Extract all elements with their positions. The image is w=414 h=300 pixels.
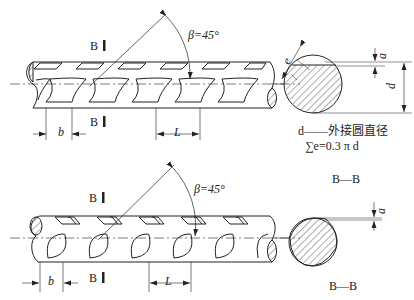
section-title-bottom: B—B [329, 280, 357, 292]
dim-b-top: b [58, 126, 64, 138]
section-mark-bottom-2 [102, 272, 105, 283]
section-label-top-1: B [90, 40, 98, 52]
note-diameter: d——外接圆直径 [298, 125, 388, 137]
section-mark-top-2 [103, 116, 106, 127]
dim-b-bottom: b [48, 275, 54, 287]
angle-label-bottom: β=45° [194, 183, 225, 195]
bottom-cross-section [272, 202, 382, 266]
top-rebar [10, 62, 300, 108]
rebar-diagram: B B β=45° b L e a d d——外接圆直径 ∑e=0.3 π d … [0, 0, 414, 300]
dim-a-label-bottom: a [375, 208, 387, 214]
section-label-top-2: B [90, 116, 98, 128]
angle-label-top: β=45° [188, 29, 219, 41]
note-rib-sum: ∑e=0.3 π d [305, 140, 359, 152]
section-label-bottom-1: B [89, 192, 97, 204]
bottom-angle-indicator [98, 165, 196, 240]
bottom-rebar [10, 216, 300, 262]
section-title-top: B—B [332, 173, 360, 185]
dim-L-bottom: L [165, 275, 172, 287]
section-label-bottom-2: B [89, 272, 97, 284]
dim-d-label: d [385, 83, 397, 89]
top-cross-section [272, 47, 412, 113]
section-mark-top-1 [103, 40, 106, 51]
dim-a-label-top: a [376, 53, 388, 59]
section-mark-bottom-1 [102, 192, 105, 203]
dim-L-top: L [174, 126, 181, 138]
